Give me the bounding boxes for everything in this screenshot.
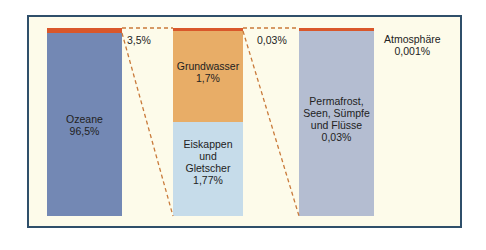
connector-lines	[0, 0, 486, 250]
